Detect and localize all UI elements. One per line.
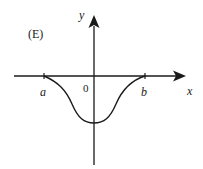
point-b-label: b: [141, 85, 147, 99]
point-a-label: a: [40, 85, 46, 99]
graph-canvas: (E) y x 0 a b: [0, 0, 203, 169]
x-axis-label: x: [186, 84, 193, 98]
y-axis-label: y: [78, 8, 85, 22]
function-graph-figure: (E) y x 0 a b: [0, 0, 203, 169]
origin-label: 0: [83, 82, 89, 94]
panel-label: (E): [28, 27, 43, 41]
